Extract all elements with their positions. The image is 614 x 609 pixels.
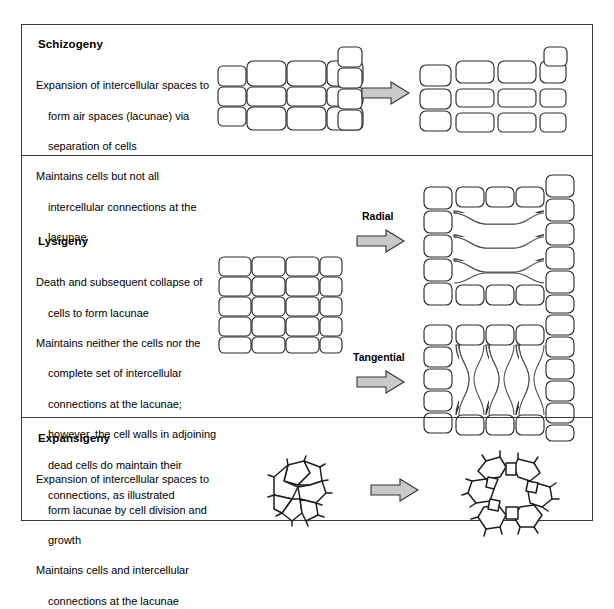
- transition-label-tangential: Tangential: [353, 351, 405, 363]
- cell-ring-with-lacuna: [462, 451, 559, 536]
- cell-grid-separated: [420, 47, 567, 132]
- lysigeny-before-diagram: [216, 255, 346, 355]
- description-line: form lacunae by cell division and: [36, 503, 248, 518]
- description-line: connections at the lacunae;: [36, 397, 248, 412]
- description-line: separation of cells: [36, 139, 248, 154]
- expansigeny-after-diagram: [460, 449, 565, 541]
- polygonal-cell-cluster: [268, 456, 332, 526]
- expansigeny-before-diagram: [262, 455, 352, 527]
- cell-grid-intact: [218, 47, 363, 130]
- section-title-expansigeny: Expansigeny: [38, 432, 110, 444]
- collapsed-cells-radial: [424, 175, 574, 313]
- radial-transition-arrow: [356, 228, 406, 254]
- description-line: Maintains cells and intercellular: [36, 563, 248, 578]
- section-description-expansigeny: Expansion of intercellular spaces to for…: [36, 457, 248, 609]
- section-title-lysigeny: Lysigeny: [38, 235, 88, 247]
- lysigeny-radial-after-diagram: [420, 183, 580, 313]
- tangential-transition-arrow: [356, 369, 406, 395]
- section-expansigeny: Expansigeny Expansion of intercellular s…: [22, 417, 592, 522]
- schizogeny-before-diagram: [214, 45, 349, 133]
- section-title-schizogeny: Schizogeny: [38, 38, 103, 50]
- cell-grid-intact: [219, 257, 342, 353]
- description-line: complete set of intercellular: [36, 366, 248, 381]
- description-line: Expansion of intercellular spaces to: [36, 472, 248, 487]
- schizogeny-transition-arrow: [361, 80, 411, 106]
- section-lysigeny: Lysigeny Death and subsequent collapse o…: [22, 155, 592, 417]
- figure-frame: Schizogeny Expansion of intercellular sp…: [21, 24, 593, 521]
- description-line: connections at the lacunae: [36, 594, 248, 609]
- section-schizogeny: Schizogeny Expansion of intercellular sp…: [22, 25, 592, 155]
- transition-label-radial: Radial: [362, 210, 394, 222]
- schizogeny-after-diagram: [418, 45, 568, 133]
- description-line: growth: [36, 533, 248, 548]
- expansigeny-transition-arrow: [370, 477, 420, 503]
